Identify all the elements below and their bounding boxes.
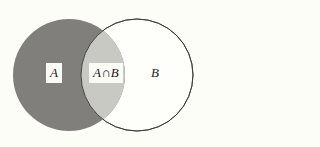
set-a-label: A [46,63,62,83]
set-b-label: B [151,66,159,79]
intersection-label: A∩B [89,63,123,83]
venn-diagram-figure: A A∩B B [0,0,206,147]
